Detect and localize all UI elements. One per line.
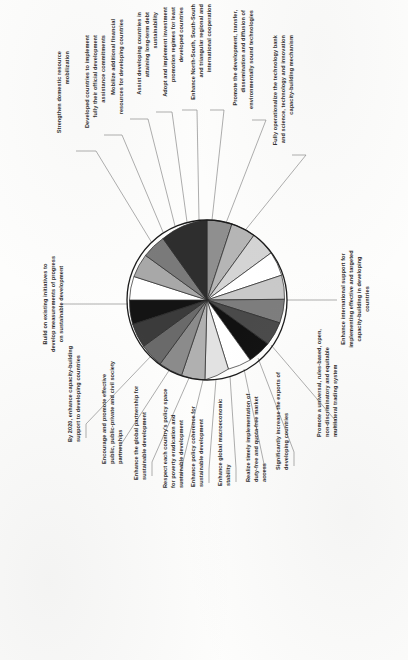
callout-label-08: Fully operationalize the technology bank… [272,35,296,159]
callout-label-15: Respect each country's policy space for … [162,378,186,488]
callout-label-06: Enhance North-South, South-South and tri… [190,4,214,114]
leader-line-03 [130,119,175,226]
callout-label-07: Promote the development, transfer, disse… [232,10,256,124]
callout-label-10: Promote a universal, rules-based, open, … [316,319,340,437]
callout-label-09: Enhance international support for implem… [340,240,372,358]
callout-label-01: Strengthen domestic resource mobilizatio… [56,51,72,155]
leader-line-06 [210,110,224,220]
callout-label-13: Enhance global macroeconomic stability [217,382,233,486]
callout-label-02: Developed countries to implement fully t… [84,35,108,139]
figure-page: Strengthen domestic resource mobilizatio… [0,0,408,660]
leader-line-14 [209,379,216,483]
callout-label-18: By 2020, enhance capacity-building suppo… [67,332,83,442]
leader-line-04 [156,112,187,222]
callout-label-12: Realize timely implementation of duty-fr… [245,372,269,482]
callout-label-14: Enhance policy coherence for sustainable… [190,383,206,487]
callout-label-04: Assist developing countries in attaining… [136,12,160,116]
leader-line-08 [243,155,306,233]
leader-line-07 [226,120,266,223]
callout-label-19: Build on existing initiatives to develop… [42,248,66,360]
leader-line-02 [104,135,163,232]
leader-line-01 [76,151,152,243]
callout-label-11: Significantly increase the exports of de… [275,360,291,470]
callout-label-16: Enhance the global partnership for susta… [133,370,149,480]
callout-label-05: Adopt and implement investment promotion… [162,7,186,114]
callout-label-03: Mobilize additional financial resources … [110,19,126,123]
pie-slices [127,220,287,380]
callout-label-17: Encourage and promote effective public, … [101,350,125,464]
